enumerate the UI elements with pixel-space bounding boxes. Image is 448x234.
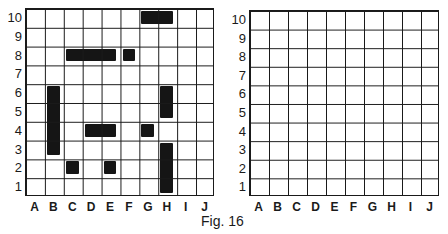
row-label: 1	[4, 177, 22, 196]
row-label: 9	[228, 29, 246, 48]
column-label: D	[82, 200, 101, 214]
column-label: D	[306, 200, 325, 214]
row-label: 6	[228, 84, 246, 103]
column-label: I	[401, 200, 420, 214]
row-label: 7	[4, 64, 22, 83]
row-label: 2	[228, 159, 246, 178]
row-label: 4	[228, 122, 246, 141]
row-label: 3	[228, 140, 246, 159]
column-label: C	[287, 200, 306, 214]
column-label: H	[157, 200, 176, 214]
grid	[249, 10, 439, 196]
column-label: F	[120, 200, 139, 214]
column-label: C	[63, 200, 82, 214]
column-label: E	[101, 200, 120, 214]
row-label: 2	[4, 158, 22, 177]
column-label: G	[363, 200, 382, 214]
column-label: G	[138, 200, 157, 214]
row-label: 3	[4, 140, 22, 159]
column-label: F	[344, 200, 363, 214]
column-label: A	[249, 200, 268, 214]
row-label: 5	[228, 103, 246, 122]
column-label: E	[325, 200, 344, 214]
row-label: 8	[228, 47, 246, 66]
row-label: 4	[4, 121, 22, 140]
row-label: 1	[228, 177, 246, 196]
column-label: J	[420, 200, 439, 214]
column-label: B	[268, 200, 287, 214]
row-label: 10	[228, 10, 246, 29]
column-label: B	[44, 200, 63, 214]
row-label: 8	[4, 46, 22, 65]
figure-caption: Fig. 16	[201, 213, 244, 229]
column-label: J	[195, 200, 214, 214]
row-label: 10	[4, 8, 22, 27]
grid	[25, 8, 214, 196]
row-label: 7	[228, 66, 246, 85]
column-label: A	[25, 200, 44, 214]
row-label: 9	[4, 27, 22, 46]
column-label: H	[382, 200, 401, 214]
row-label: 5	[4, 102, 22, 121]
column-label: I	[176, 200, 195, 214]
row-label: 6	[4, 83, 22, 102]
